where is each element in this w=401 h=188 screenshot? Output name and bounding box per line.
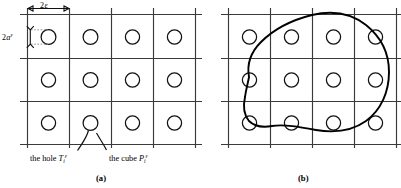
- panel-a: 2ε 2aε the hole Tiε the cube Piε (a): [2, 1, 202, 184]
- hole-circle: [83, 116, 98, 131]
- hole-circle: [326, 30, 340, 44]
- hole-circle: [326, 116, 340, 130]
- perforated-domain-figure: 2ε 2aε the hole Tiε the cube Piε (a): [0, 0, 401, 188]
- hole-circle: [167, 116, 181, 130]
- hole-circle: [284, 73, 298, 87]
- hole-circle: [284, 116, 298, 130]
- cube-annotation-label: the cube Piε: [109, 153, 149, 164]
- cell-width-label: 2ε: [40, 1, 48, 10]
- hole-circle: [368, 73, 382, 87]
- panel-b-caption: (b): [298, 173, 309, 183]
- hole-circle: [41, 30, 56, 45]
- hole-circle: [167, 30, 181, 44]
- hole-circle: [167, 73, 181, 87]
- domain-boundary-curve: [244, 13, 389, 131]
- cube-leader-line: [97, 133, 107, 150]
- figure-root: 2ε 2aε the hole Tiε the cube Piε (a): [0, 0, 401, 188]
- hole-circle: [125, 73, 139, 87]
- panel-a-caption: (a): [96, 173, 106, 183]
- hole-circle: [284, 30, 298, 44]
- hole-circle: [326, 73, 340, 87]
- hole-circle: [41, 73, 55, 87]
- panel-b: [221, 8, 401, 148]
- hole-diameter-label: 2aε: [2, 32, 13, 42]
- hole-circle: [41, 116, 55, 130]
- hole-circle: [83, 73, 98, 88]
- hole-circle: [242, 116, 256, 130]
- hole-circle: [125, 30, 139, 44]
- hole-circle: [242, 30, 256, 44]
- cell-width-dimension: [28, 6, 69, 11]
- hole-circle: [125, 116, 139, 130]
- hole-circle: [83, 30, 98, 45]
- panel-a-leaders: [78, 131, 107, 151]
- hole-leader-line: [78, 131, 89, 151]
- hole-annotation-label: the hole Tiε: [30, 153, 68, 164]
